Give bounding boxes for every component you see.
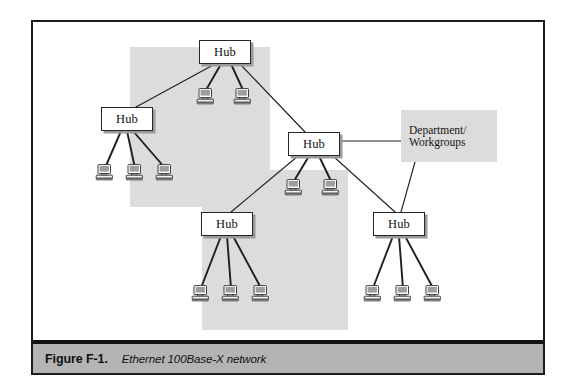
drop-hubbl-pc3 xyxy=(233,236,261,288)
figure-caption-text: Ethernet 100Base-X network xyxy=(122,353,266,365)
computer-icon[interactable] xyxy=(196,88,216,106)
hub-node-label: Hub xyxy=(214,45,236,60)
hub-node-bottom-left[interactable]: Hub xyxy=(201,212,253,236)
computer-icon[interactable] xyxy=(423,285,443,303)
hub-node-top[interactable]: Hub xyxy=(199,40,251,64)
hub-node-label: Hub xyxy=(303,137,325,152)
hub-node-label: Hub xyxy=(388,217,410,232)
figure-caption-bar: Figure F-1. Ethernet 100Base-X network xyxy=(33,340,543,373)
computer-icon[interactable] xyxy=(363,285,383,303)
drop-hubleft-pc1 xyxy=(105,131,121,168)
hub-node-bottom-right[interactable]: Hub xyxy=(373,212,425,236)
link-hubcenter-hubbr xyxy=(333,156,395,212)
link-dept-hubbr xyxy=(401,162,415,212)
computer-icon[interactable] xyxy=(191,285,211,303)
drop-hubleft-pc3 xyxy=(133,131,165,168)
drop-hubleft-pc2 xyxy=(127,131,135,168)
computer-icon[interactable] xyxy=(155,164,175,182)
computer-icon[interactable] xyxy=(221,285,241,303)
computer-icon[interactable] xyxy=(125,164,145,182)
figure-caption-number: Figure F-1. xyxy=(45,352,108,366)
drop-hubbl-pc2 xyxy=(227,236,231,288)
drop-hubcenter-pc2 xyxy=(319,156,331,181)
hub-node-label: Hub xyxy=(216,217,238,232)
network-diagram: Hub Hub Hub Hub Hub Department/ Workgrou… xyxy=(33,22,543,340)
computer-icon[interactable] xyxy=(321,179,341,197)
computer-icon[interactable] xyxy=(393,285,413,303)
drop-hubbl-pc1 xyxy=(201,236,221,288)
hub-node-left[interactable]: Hub xyxy=(101,107,153,131)
drop-hubbr-pc2 xyxy=(399,236,403,288)
drop-hubcenter-pc1 xyxy=(294,156,309,181)
figure-frame: Hub Hub Hub Hub Hub Department/ Workgrou… xyxy=(31,20,545,375)
drop-hubbr-pc1 xyxy=(373,236,393,288)
computer-icon[interactable] xyxy=(233,88,253,106)
hub-node-label: Hub xyxy=(116,112,138,127)
department-workgroups-annotation: Department/ Workgroups xyxy=(401,110,497,162)
computer-icon[interactable] xyxy=(284,179,304,197)
hub-node-center[interactable]: Hub xyxy=(288,132,340,156)
computer-icon[interactable] xyxy=(95,164,115,182)
drop-hubtop-pc2 xyxy=(231,64,243,90)
drop-hubbr-pc3 xyxy=(405,236,433,288)
computer-icon[interactable] xyxy=(251,285,271,303)
department-workgroups-label: Department/ Workgroups xyxy=(409,124,466,149)
